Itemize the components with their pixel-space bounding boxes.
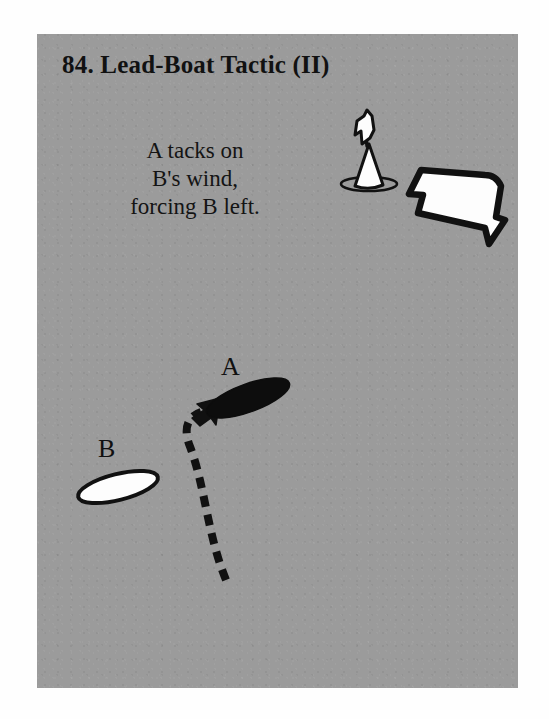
mark-buoy-with-flag <box>341 110 397 191</box>
wind-arrow-shape <box>409 170 505 244</box>
tack-path-dashed-line <box>187 412 226 580</box>
buoy-pole <box>364 117 367 146</box>
boat-a <box>202 370 294 426</box>
buoy-base-ellipse <box>341 177 397 191</box>
boat-a-label: A <box>221 352 240 382</box>
diagram-graphics <box>37 34 518 688</box>
caption-line-2: B's wind, <box>75 165 315 193</box>
boat-b-label: B <box>98 434 115 464</box>
tack-path-arrowhead <box>192 398 220 426</box>
buoy-body <box>355 144 383 188</box>
page-title: 84. Lead-Boat Tactic (II) <box>62 51 330 79</box>
caption-line-1: A tacks on <box>75 137 315 165</box>
wind-arrow <box>409 170 505 244</box>
boat-b <box>75 464 161 509</box>
diagram-panel: 84. Lead-Boat Tactic (II) A tacks on B's… <box>37 34 518 688</box>
caption-line-3: forcing B left. <box>75 193 315 221</box>
boat-a-hull <box>202 370 294 426</box>
page-canvas: 84. Lead-Boat Tactic (II) A tacks on B's… <box>0 0 549 719</box>
buoy-flag <box>355 110 374 144</box>
tack-path <box>187 398 226 580</box>
boat-b-hull <box>75 464 161 509</box>
caption-text: A tacks on B's wind, forcing B left. <box>75 137 315 221</box>
